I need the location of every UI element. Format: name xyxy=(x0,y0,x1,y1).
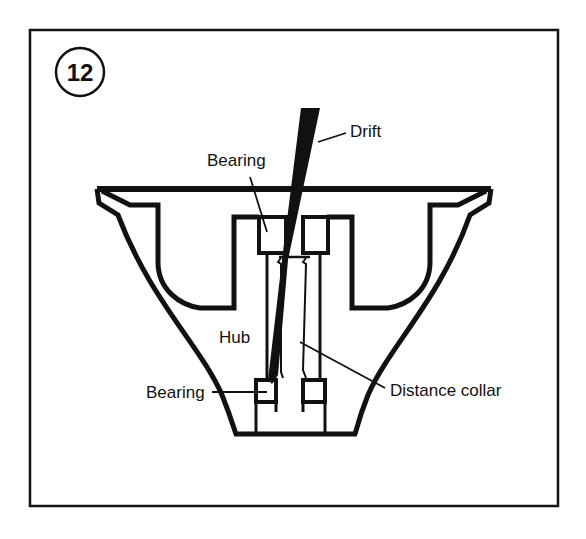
upper-bearing-left xyxy=(259,217,286,253)
figure-number-badge: 12 xyxy=(56,48,104,96)
leader-drift xyxy=(318,133,346,142)
lower-bearings xyxy=(256,380,325,402)
label-drift: Drift xyxy=(350,122,381,141)
lower-bearing-right xyxy=(303,380,325,402)
label-hub: Hub xyxy=(219,328,250,347)
label-bearing-bottom: Bearing xyxy=(146,383,205,402)
label-distance-collar: Distance collar xyxy=(390,381,502,400)
upper-bearing-right xyxy=(303,217,328,253)
figure-number: 12 xyxy=(67,59,94,86)
lower-bearing-left xyxy=(256,380,276,402)
diagram-figure: 12 xyxy=(0,0,586,539)
hub-base xyxy=(256,402,325,434)
label-bearing-top: Bearing xyxy=(207,151,266,170)
